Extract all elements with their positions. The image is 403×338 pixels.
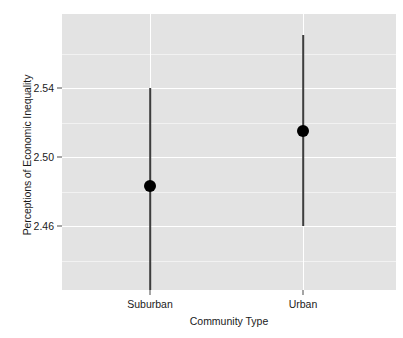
y-tick-label-2-50: 2.50 xyxy=(12,151,54,163)
datapoint-urban xyxy=(297,125,309,137)
datapoint-suburban xyxy=(144,180,156,192)
x-tick-mark-urban xyxy=(303,290,304,295)
x-tick-label-urban: Urban xyxy=(243,298,363,310)
y-tick-label-2-54: 2.54 xyxy=(12,82,54,94)
gridline-2-46 xyxy=(62,226,396,227)
gridline-2-50 xyxy=(62,157,396,158)
minor-gridline-h xyxy=(62,192,396,193)
gridline-2-54 xyxy=(62,88,396,89)
x-tick-label-suburban: Suburban xyxy=(90,298,210,310)
minor-gridline-h xyxy=(62,54,396,55)
minor-gridline-h xyxy=(62,123,396,124)
inequality-by-community-type-chart: Perceptions of Economic Inequality 2.54 … xyxy=(0,0,403,338)
minor-gridline-h xyxy=(62,261,396,262)
y-tick-label-2-46: 2.46 xyxy=(12,220,54,232)
x-axis-title: Community Type xyxy=(62,315,396,327)
plot-panel xyxy=(62,14,396,290)
x-tick-mark-suburban xyxy=(150,290,151,295)
